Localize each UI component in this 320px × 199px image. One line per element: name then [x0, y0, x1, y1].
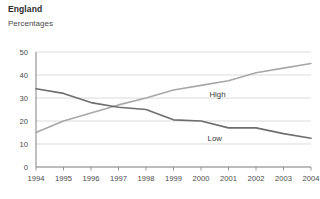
y-tick-label: 20 — [20, 117, 28, 126]
chart-container: England Percentages 01020304050 19941995… — [0, 0, 320, 199]
x-tick-label: 1997 — [110, 174, 127, 183]
y-tick-label: 50 — [20, 48, 28, 57]
y-tick-label: 30 — [20, 94, 28, 103]
x-tick-label: 1994 — [28, 174, 45, 183]
gridlines-group — [36, 52, 311, 167]
series-line-low — [36, 89, 311, 138]
y-tick-label: 10 — [20, 140, 28, 149]
x-tick-label: 2002 — [248, 174, 265, 183]
x-tick-label: 2001 — [220, 174, 237, 183]
x-tick-label: 2004 — [303, 174, 320, 183]
y-axis-tick-labels: 01020304050 — [20, 48, 28, 172]
x-tick-label: 2000 — [193, 174, 210, 183]
axes-group — [36, 52, 311, 167]
x-tick-label: 1996 — [83, 174, 100, 183]
x-tick-label: 2003 — [275, 174, 292, 183]
series-inline-labels: HighLow — [208, 90, 226, 143]
y-tick-label: 40 — [20, 71, 28, 80]
series-label-low: Low — [208, 134, 223, 143]
x-tick-label: 1998 — [138, 174, 155, 183]
line-chart-plot: 01020304050 1994199519961997199819992000… — [0, 0, 320, 199]
y-tick-label: 0 — [24, 163, 28, 172]
series-label-high: High — [209, 90, 225, 99]
x-tick-label: 1995 — [55, 174, 72, 183]
x-tick-label: 1999 — [165, 174, 182, 183]
x-axis-tick-labels: 1994199519961997199819992000200120022003… — [28, 167, 320, 183]
